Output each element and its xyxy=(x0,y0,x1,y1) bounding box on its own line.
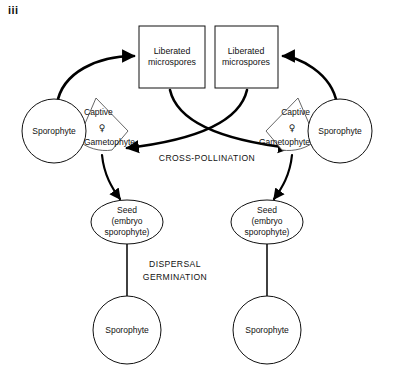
sporophyte-right-label: Sporophyte xyxy=(318,126,362,136)
microspore-box-left-line2: microspores xyxy=(148,57,197,67)
arrow-left-sporophyte-to-microspores xyxy=(57,56,134,104)
seed-right-line3: sporophyte) xyxy=(245,227,290,237)
arrow-right-sporophyte-to-microspores xyxy=(283,56,337,104)
germination-label: GERMINATION xyxy=(143,272,207,282)
life-cycle-diagram: Liberated microspores Liberated microspo… xyxy=(0,0,394,366)
arrow-right-microspores-to-left-gametophyte xyxy=(127,90,247,148)
offspring-sporophyte-left-label: Sporophyte xyxy=(105,325,149,335)
gametophyte-left-female-icon: ♀ xyxy=(99,123,106,133)
dispersal-label: DISPERSAL xyxy=(149,259,201,269)
microspore-box-left-line1: Liberated xyxy=(154,46,191,56)
arrow-left-gametophyte-to-seed xyxy=(102,155,120,199)
seed-right-line2: (embryo xyxy=(251,216,282,226)
seed-left-line2: (embryo xyxy=(111,216,142,226)
cross-pollination-label: CROSS-POLLINATION xyxy=(159,153,255,163)
gametophyte-left-captive: Captive xyxy=(84,107,113,117)
seed-right-line1: Seed xyxy=(257,205,277,215)
gametophyte-right-female-icon: ♀ xyxy=(289,123,296,133)
microspore-box-right-line2: microspores xyxy=(222,57,271,67)
offspring-sporophyte-right-label: Sporophyte xyxy=(245,325,289,335)
seed-left-line3: sporophyte) xyxy=(105,227,150,237)
gametophyte-left-name: Gametophyte xyxy=(84,137,135,147)
seed-left-line1: Seed xyxy=(117,205,137,215)
sporophyte-left-label: Sporophyte xyxy=(32,126,76,136)
diagram-page: iii Liberated microspores Liber xyxy=(0,0,394,366)
gametophyte-right-captive: Captive xyxy=(281,107,310,117)
arrow-right-gametophyte-to-seed xyxy=(274,155,292,199)
microspore-box-right-line1: Liberated xyxy=(228,46,265,56)
gametophyte-right-name: Gametophyte xyxy=(259,137,310,147)
